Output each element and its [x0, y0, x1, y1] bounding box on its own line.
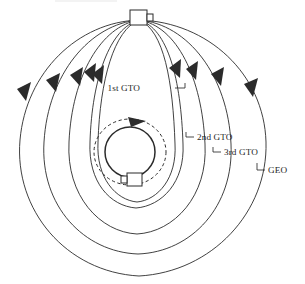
label-gto1: 1st GTO [108, 83, 141, 93]
orbit-gto2-arrow-left [70, 67, 83, 86]
orbit-diagram-canvas: 1st GTO 2nd GTO 3rd GTO GEO [0, 0, 305, 284]
parking-orbit-direction-arrow [128, 117, 146, 127]
orbit-diagram-page: 1st GTO 2nd GTO 3rd GTO GEO [0, 0, 305, 284]
orbit-gto3-arrow-left [46, 73, 60, 92]
leader-line-gto3 [213, 147, 221, 152]
spacecraft-perigee-body [127, 173, 142, 186]
label-geo: GEO [268, 165, 287, 175]
orbit-gto2-arrow-right [186, 61, 198, 80]
label-gto3: 3rd GTO [224, 147, 258, 157]
label-gto2: 2nd GTO [197, 132, 233, 142]
leader-line-gto2 [186, 132, 194, 137]
orbit-geo-arrow-left [17, 82, 31, 101]
spacecraft-apogee-body [130, 10, 147, 25]
spacecraft-perigee-nozzle [121, 176, 127, 183]
earth [105, 127, 155, 177]
orbit-geo-arrow-right [244, 78, 258, 97]
spacecraft-apogee-nozzle [147, 14, 153, 21]
